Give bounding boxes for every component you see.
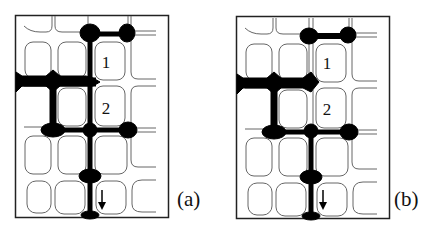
panel-a-caption: (a) (177, 187, 200, 212)
panel-b-caption: (b) (394, 187, 419, 212)
flow-network (237, 27, 358, 220)
cell-label-1: 1 (102, 53, 111, 72)
cell-label-1: 1 (323, 54, 332, 73)
cell-label-2: 2 (323, 100, 332, 119)
down-arrow-icon (319, 190, 327, 210)
down-arrow-icon (98, 190, 106, 210)
cell-label-2: 2 (102, 99, 111, 118)
flow-network (16, 24, 137, 219)
